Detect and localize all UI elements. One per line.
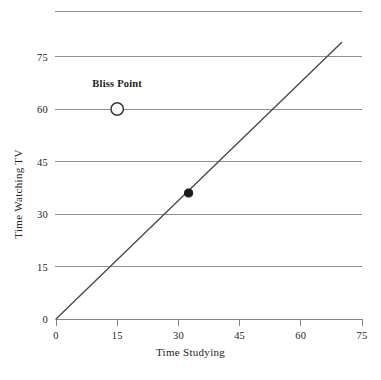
y-tick-label-0: 0 xyxy=(18,314,48,325)
annotation-bliss-point: Bliss Point xyxy=(92,78,142,89)
x-axis-label: Time Studying xyxy=(0,346,381,358)
x-tick-label-45: 45 xyxy=(234,330,245,341)
axes-group xyxy=(56,319,362,326)
data-points-group xyxy=(111,103,193,197)
chart-plot-svg xyxy=(0,0,381,380)
y-tick-label-60: 60 xyxy=(18,104,48,115)
y-tick-label-75: 75 xyxy=(18,51,48,62)
y-tick-label-45: 45 xyxy=(18,156,48,167)
x-tick-label-30: 30 xyxy=(173,330,184,341)
x-tick-label-15: 15 xyxy=(112,330,123,341)
marker-chosen-point xyxy=(185,189,193,197)
x-tick-label-0: 0 xyxy=(53,330,58,341)
chart-container: Time Watching TV Time Studying 015304560… xyxy=(0,0,381,380)
x-tick-label-75: 75 xyxy=(357,330,368,341)
x-tick-marks-group xyxy=(56,319,362,326)
y-axis-label: Time Watching TV xyxy=(12,114,24,274)
marker-bliss-point xyxy=(111,103,123,115)
y-tick-label-30: 30 xyxy=(18,209,48,220)
x-tick-label-60: 60 xyxy=(295,330,306,341)
gridlines-group xyxy=(55,11,362,267)
y-tick-label-15: 15 xyxy=(18,261,48,272)
